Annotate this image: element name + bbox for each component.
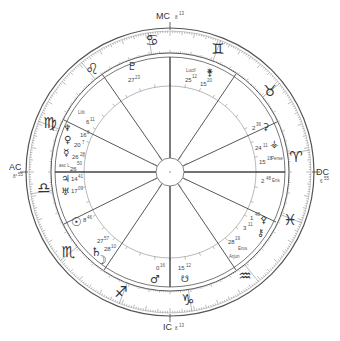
taurus-icon: ♉	[263, 82, 276, 100]
svg-text:26: 26	[72, 154, 79, 160]
pluto-icon: ♇	[127, 60, 137, 73]
svg-text:1: 1	[250, 215, 254, 221]
svg-text:36: 36	[256, 122, 262, 127]
mc-label: MC	[156, 11, 170, 21]
eros-label: Eros	[238, 246, 248, 251]
leo-icon: ♌	[85, 60, 98, 78]
venus-icon: ♀	[64, 134, 71, 145]
svg-text:12: 12	[192, 74, 198, 79]
svg-text:8°: 8°	[13, 174, 18, 179]
lucifer-label: Lucif	[186, 68, 196, 73]
svg-text:55: 55	[18, 172, 24, 177]
svg-text:12: 12	[186, 263, 192, 268]
arjun-label: Arjun	[229, 254, 240, 259]
svg-text:20: 20	[74, 142, 81, 148]
svg-text:7: 7	[82, 140, 85, 145]
svg-text:24: 24	[255, 145, 262, 151]
svg-text:13: 13	[179, 323, 185, 328]
svg-text:48: 48	[266, 176, 272, 181]
libra-icon: ♎	[37, 179, 50, 197]
pallas-icon: ⚴	[260, 214, 267, 225]
svg-text:57: 57	[104, 236, 110, 241]
svg-text:13: 13	[179, 11, 185, 16]
juno-icon: ⚵	[206, 67, 213, 78]
virgo-icon: ♍	[43, 114, 56, 132]
sagittarius-icon: ♐	[114, 283, 127, 301]
svg-text:19: 19	[235, 236, 241, 241]
neptune-icon: ♆	[63, 123, 71, 133]
svg-text:18: 18	[267, 156, 273, 161]
svg-text:20: 20	[207, 78, 213, 83]
svg-text:50: 50	[77, 161, 83, 166]
svg-text:10: 10	[111, 244, 117, 249]
planet-positions: ♇ 27 23 Lilit 6 11 ♆ 16 8 ♀ 20 7 ☿ 26 28…	[59, 60, 283, 286]
svg-text:16: 16	[160, 263, 166, 268]
svg-text:8: 8	[175, 326, 178, 331]
uranus-icon: ♅	[61, 186, 70, 197]
svg-text:09: 09	[78, 186, 84, 191]
vesta-icon: ⚶	[270, 138, 279, 149]
svg-text:28: 28	[80, 152, 86, 157]
persephone-label: Perse	[271, 156, 283, 161]
svg-text:41: 41	[78, 174, 84, 179]
svg-text:11: 11	[90, 117, 95, 122]
aries-icon: ♈	[289, 148, 302, 166]
cancer-icon: ♋	[145, 31, 158, 49]
svg-text:8: 8	[175, 15, 178, 20]
svg-text:6: 6	[320, 179, 323, 184]
svg-text:15: 15	[259, 159, 266, 165]
astrology-wheel: ♋ ♊ ♉ ♈ ♓ ♒ ♑ ♐ ♏ ♎ ♍ ♌ MC 8 13 AC 8° 55…	[0, 0, 340, 341]
ac-label: AC	[9, 162, 22, 172]
ic-label: IC	[163, 322, 173, 332]
ceres-icon: ⚳	[262, 121, 269, 132]
aquarius-icon: ♒	[238, 267, 251, 285]
svg-text:23: 23	[135, 75, 141, 80]
mercury-icon: ☿	[63, 147, 69, 158]
sun-icon: ☉	[71, 215, 82, 229]
svg-text:48: 48	[255, 212, 261, 217]
desc-node-icon: ☋	[181, 274, 189, 284]
svg-text:3: 3	[243, 225, 247, 231]
capricorn-icon: ♑	[181, 291, 194, 309]
lilith-label: Lilit	[78, 110, 86, 115]
pisces-icon: ♓	[283, 211, 296, 229]
asc-node-label: asc L	[59, 163, 70, 168]
svg-text:15: 15	[178, 265, 185, 271]
svg-text:11: 11	[263, 143, 268, 148]
svg-text:2: 2	[261, 178, 265, 184]
jupiter-icon: ♃	[61, 173, 70, 184]
svg-text:55: 55	[324, 176, 330, 181]
eris-label: Eris	[272, 178, 280, 183]
chiron-icon: ⚷	[257, 227, 264, 238]
moon-icon: ☽	[96, 253, 107, 267]
scorpio-icon: ♏	[61, 243, 75, 261]
mars-icon: ♂	[150, 273, 160, 286]
svg-text:46: 46	[87, 215, 93, 220]
svg-text:11: 11	[248, 222, 253, 227]
svg-text:26: 26	[70, 166, 77, 172]
gemini-icon: ♊	[211, 40, 224, 58]
